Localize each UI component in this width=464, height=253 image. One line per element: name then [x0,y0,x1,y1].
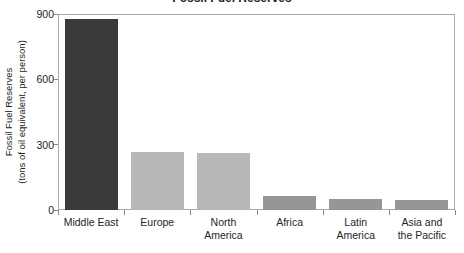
bar-north-america [197,153,250,210]
x-tick-mark [455,210,456,215]
x-tick-label-line: Latin [323,216,389,229]
y-axis-title: Fossil Fuel Reserves (tons of oil equiva… [0,14,30,210]
y-tick-label: 900 [28,9,54,20]
x-tick-label: Asia andthe Pacific [389,216,455,242]
bar-africa [263,196,316,210]
bar-latin-america [329,199,382,210]
x-tick-label-line: Asia and [389,216,455,229]
y-tick-label: 600 [28,74,54,85]
y-axis-tick-labels: 0300600900 [28,0,54,253]
x-tick-label: NorthAmerica [190,216,256,242]
x-axis-tick-labels: Middle EastEuropeNorthAmericaAfricaLatin… [58,216,455,253]
y-axis-title-line1: Fossil Fuel Reserves [3,40,16,184]
chart-title: Fossil Fuel Reserves [0,0,464,5]
x-tick-mark [190,210,191,215]
bar-series [58,14,455,210]
chart-title-cropped: Fossil Fuel Reserves [0,0,464,7]
x-tick-mark [257,210,258,215]
x-tick-label-line: Middle East [58,216,124,229]
bar-middle-east [65,19,118,210]
y-axis-title-line2: (tons of oil equivalent, per person) [15,40,28,184]
x-tick-label: Middle East [58,216,124,229]
x-tick-label-line: America [190,229,256,242]
x-tick-mark [124,210,125,215]
x-tick-label-line: North [190,216,256,229]
x-tick-label-line: Africa [257,216,323,229]
bar-europe [131,152,184,210]
x-tick-label: Europe [124,216,190,229]
bar-asia-and-the-pacific [395,200,448,210]
y-tick-label: 300 [28,140,54,151]
fossil-fuel-reserves-bar-chart: Fossil Fuel Reserves Fossil Fuel Reserve… [0,0,464,253]
x-tick-mark [323,210,324,215]
x-tick-label: Africa [257,216,323,229]
x-tick-mark [58,210,59,215]
x-tick-label: LatinAmerica [323,216,389,242]
x-tick-label-line: the Pacific [389,229,455,242]
x-tick-mark [389,210,390,215]
x-tick-label-line: America [323,229,389,242]
y-tick-label: 0 [28,205,54,216]
x-tick-label-line: Europe [124,216,190,229]
